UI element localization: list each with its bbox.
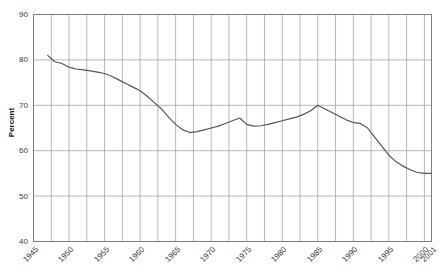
- vertical-gridlines: [51, 15, 424, 242]
- plot-area: [0, 0, 439, 275]
- plot-frame: [34, 15, 432, 242]
- horizontal-gridlines: [34, 60, 432, 196]
- data-series-line: [48, 55, 432, 173]
- line-chart: Percent 908070605040 1945195019551960196…: [0, 0, 439, 275]
